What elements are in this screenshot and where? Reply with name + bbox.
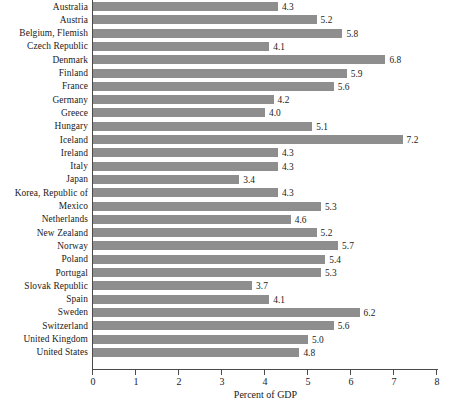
y-axis-line <box>92 0 93 370</box>
bar <box>93 55 385 64</box>
bar-value-label: 5.0 <box>312 336 324 345</box>
category-label: France <box>0 81 88 91</box>
bar <box>93 215 291 224</box>
category-label: Hungary <box>0 121 88 131</box>
x-axis-tick <box>350 370 351 375</box>
bar-value-label: 4.0 <box>269 109 281 118</box>
category-label: Sweden <box>0 307 88 317</box>
bar-value-label: 5.1 <box>316 123 328 132</box>
bar-value-label: 4.3 <box>282 163 294 172</box>
bar-value-label: 4.8 <box>303 349 315 358</box>
category-label: New Zealand <box>0 228 88 238</box>
x-axis-tick <box>178 370 179 375</box>
category-label: Spain <box>0 294 88 304</box>
x-axis-tick <box>264 370 265 375</box>
category-label: Germany <box>0 95 88 105</box>
bar <box>93 295 269 304</box>
bar-value-label: 5.2 <box>321 229 333 238</box>
category-label: Italy <box>0 161 88 171</box>
category-label: Belgium, Flemish <box>0 28 88 38</box>
bar-value-label: 4.3 <box>282 149 294 158</box>
bar-value-label: 5.7 <box>342 242 354 251</box>
category-label: Poland <box>0 254 88 264</box>
category-label: Austria <box>0 15 88 25</box>
bar <box>93 15 317 24</box>
bar <box>93 162 278 171</box>
category-label: United Kingdom <box>0 334 88 344</box>
bar <box>93 335 308 344</box>
category-label: Slovak Republic <box>0 281 88 291</box>
x-axis-tick <box>221 370 222 375</box>
category-label: Greece <box>0 108 88 118</box>
bar-value-label: 4.2 <box>278 96 290 105</box>
category-label: Japan <box>0 174 88 184</box>
x-axis-tick-label: 5 <box>298 376 318 388</box>
x-axis-tick-label: 6 <box>341 376 361 388</box>
bar-value-label: 5.8 <box>346 30 358 39</box>
bar-value-label: 5.2 <box>321 16 333 25</box>
bar-value-label: 3.7 <box>256 282 268 291</box>
bar <box>93 255 325 264</box>
x-axis-tick-label: 0 <box>83 376 103 388</box>
bar <box>93 108 265 117</box>
x-axis-title: Percent of GDP <box>93 389 438 401</box>
bar-value-label: 6.2 <box>364 309 376 318</box>
bar <box>93 95 274 104</box>
bar <box>93 202 321 211</box>
category-label: Finland <box>0 68 88 78</box>
category-label: Switzerland <box>0 321 88 331</box>
x-axis-tick-label: 3 <box>212 376 232 388</box>
x-axis-tick <box>307 370 308 375</box>
bar-chart: AustraliaAustriaBelgium, FlemishCzech Re… <box>0 0 449 405</box>
bar <box>93 308 360 317</box>
bar <box>93 122 312 131</box>
category-label: Mexico <box>0 201 88 211</box>
x-axis-tick-label: 7 <box>384 376 404 388</box>
bar-value-label: 4.1 <box>273 296 285 305</box>
category-label: Netherlands <box>0 214 88 224</box>
category-label: Portugal <box>0 268 88 278</box>
bar-value-label: 5.6 <box>338 83 350 92</box>
x-axis-tick-label: 2 <box>169 376 189 388</box>
bar <box>93 228 317 237</box>
x-axis-tick <box>92 370 93 375</box>
category-label: Czech Republic <box>0 41 88 51</box>
category-label: Norway <box>0 241 88 251</box>
category-label: Korea, Republic of <box>0 188 88 198</box>
plot-area: 4.35.25.84.16.85.95.64.24.05.17.24.34.33… <box>93 0 449 370</box>
bar-value-label: 3.4 <box>243 176 255 185</box>
bar-value-label: 4.3 <box>282 3 294 12</box>
bar-value-label: 4.3 <box>282 189 294 198</box>
bar <box>93 135 403 144</box>
bar-value-label: 6.8 <box>389 56 401 65</box>
category-label: Australia <box>0 2 88 12</box>
x-axis-line <box>92 369 438 370</box>
bar-value-label: 5.4 <box>329 256 341 265</box>
bar-value-label: 5.3 <box>325 203 337 212</box>
category-label: United States <box>0 347 88 357</box>
bar <box>93 175 239 184</box>
bar <box>93 82 334 91</box>
bar <box>93 268 321 277</box>
bar <box>93 241 338 250</box>
bar <box>93 42 269 51</box>
bar-value-label: 5.9 <box>351 70 363 79</box>
bar <box>93 2 278 11</box>
bar <box>93 148 278 157</box>
category-label: Ireland <box>0 148 88 158</box>
bar-value-label: 5.6 <box>338 322 350 331</box>
bar <box>93 29 342 38</box>
bar <box>93 281 252 290</box>
category-label: Iceland <box>0 135 88 145</box>
bar-value-label: 7.2 <box>407 136 419 145</box>
x-axis-tick <box>135 370 136 375</box>
bar-value-label: 4.1 <box>273 43 285 52</box>
x-axis-tick <box>393 370 394 375</box>
bar <box>93 321 334 330</box>
bar-value-label: 5.3 <box>325 269 337 278</box>
bar <box>93 188 278 197</box>
x-axis-tick-label: 4 <box>255 376 275 388</box>
bar <box>93 69 347 78</box>
bar <box>93 348 299 357</box>
x-axis-tick-label: 8 <box>427 376 447 388</box>
